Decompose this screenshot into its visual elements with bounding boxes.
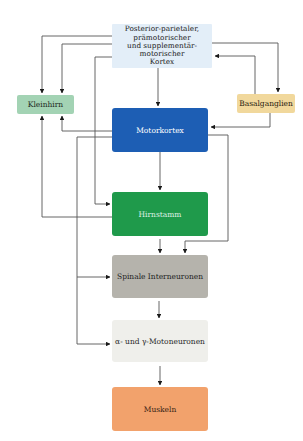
edge-motorkortex-to-motoneuronen bbox=[77, 137, 112, 344]
node-basalganglien: Basalganglien bbox=[237, 94, 295, 113]
node-hirnstamm-label: Hirnstamm bbox=[139, 210, 182, 219]
edge-top-to-kleinhirn-2 bbox=[62, 44, 112, 93]
node-motoneuronen-label: α- und γ-Motoneuronen bbox=[115, 337, 205, 346]
node-basalganglien-label: Basalganglien bbox=[239, 99, 293, 108]
edge-top-to-kleinhirn-1 bbox=[42, 36, 112, 93]
edge-motorkortex-to-kleinhirn bbox=[62, 116, 112, 131]
edge-top-to-hirnstamm bbox=[95, 57, 112, 204]
node-spinale-interneuronen: Spinale Interneuronen bbox=[112, 255, 208, 298]
node-muskeln-label: Muskeln bbox=[144, 405, 177, 414]
node-association-cortex-label: Posterior-parietaler, prämotorischer und… bbox=[125, 25, 199, 66]
node-spinale-interneuronen-label: Spinale Interneuronen bbox=[117, 272, 203, 281]
node-motorkortex-label: Motorkortex bbox=[136, 126, 184, 135]
edge-top-to-basalganglien bbox=[212, 43, 278, 92]
node-hirnstamm: Hirnstamm bbox=[112, 192, 208, 236]
node-motoneuronen: α- und γ-Motoneuronen bbox=[112, 320, 208, 362]
edge-basalganglien-to-motorkortex bbox=[211, 113, 270, 127]
edge-basalganglien-to-top bbox=[215, 56, 255, 94]
node-association-cortex: Posterior-parietaler, prämotorischer und… bbox=[112, 24, 212, 68]
node-muskeln: Muskeln bbox=[112, 387, 208, 431]
node-kleinhirn-label: Kleinhirn bbox=[28, 100, 63, 109]
label-line-5: Kortex bbox=[125, 58, 199, 66]
node-kleinhirn: Kleinhirn bbox=[17, 95, 74, 114]
node-motorkortex: Motorkortex bbox=[112, 108, 208, 152]
